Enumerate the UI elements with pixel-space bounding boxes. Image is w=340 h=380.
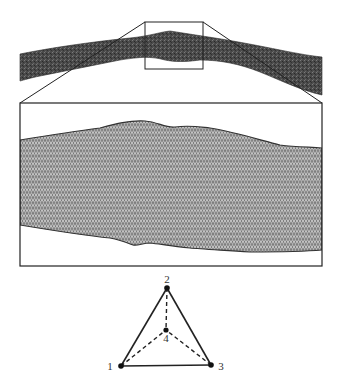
edge-1-4 bbox=[121, 330, 166, 366]
vertex-label-4: 4 bbox=[163, 332, 169, 344]
figure-canvas: 1 2 3 4 bbox=[0, 0, 340, 380]
edge-3-4 bbox=[166, 330, 211, 365]
edge-1-2 bbox=[121, 288, 167, 366]
overview-vessel bbox=[20, 31, 322, 95]
tetrahedron-diagram: 1 2 3 4 bbox=[107, 273, 224, 372]
overview-vessel-shape bbox=[20, 31, 322, 95]
edge-1-3 bbox=[121, 365, 211, 366]
vertex-3-dot bbox=[208, 362, 214, 368]
vertex-label-2: 2 bbox=[164, 273, 170, 285]
vertex-1-dot bbox=[118, 363, 124, 369]
edge-2-3 bbox=[167, 288, 211, 365]
inset-panel bbox=[20, 103, 322, 266]
edge-2-4 bbox=[166, 288, 167, 330]
vertex-label-1: 1 bbox=[107, 360, 113, 372]
vertex-2-dot bbox=[164, 285, 170, 291]
vertex-label-3: 3 bbox=[218, 360, 224, 372]
